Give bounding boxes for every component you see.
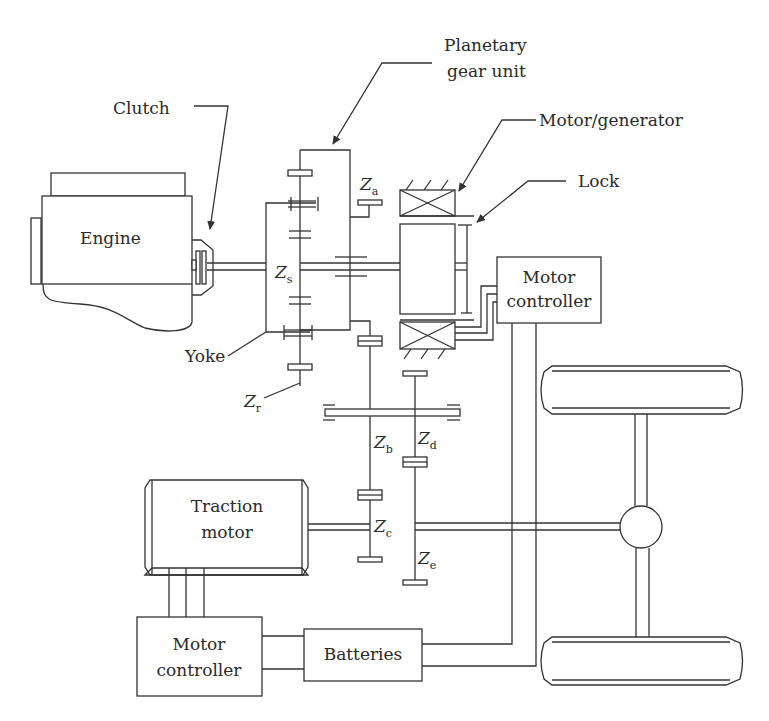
motor-controller-top: Motor controller bbox=[497, 257, 601, 323]
engine-front-plate bbox=[31, 218, 41, 284]
svg-text:Zc: Zc bbox=[373, 516, 392, 540]
svg-text:Motor/generator: Motor/generator bbox=[539, 110, 684, 130]
svg-text:Lock: Lock bbox=[578, 171, 620, 191]
svg-text:controller: controller bbox=[157, 660, 243, 680]
engine-oil-pan bbox=[43, 284, 192, 331]
svg-text:Za: Za bbox=[359, 174, 379, 198]
clutch bbox=[192, 240, 213, 295]
svg-text:gear unit: gear unit bbox=[447, 61, 526, 81]
svg-text:Zr: Zr bbox=[243, 391, 262, 415]
wheel-bottom bbox=[541, 637, 743, 685]
rear-axle bbox=[541, 366, 743, 685]
svg-text:controller: controller bbox=[507, 291, 593, 311]
batteries: Batteries bbox=[304, 629, 422, 681]
wheel-top bbox=[541, 366, 743, 414]
motor-controller-bottom: Motor controller bbox=[137, 617, 262, 696]
svg-text:Engine: Engine bbox=[80, 228, 141, 248]
svg-text:Zs: Zs bbox=[274, 262, 293, 286]
traction-motor: Traction motor bbox=[145, 480, 308, 575]
svg-text:Ze: Ze bbox=[417, 548, 436, 572]
svg-text:Motor: Motor bbox=[173, 634, 227, 654]
svg-text:Zd: Zd bbox=[417, 428, 437, 452]
differential bbox=[620, 506, 662, 548]
wire-controller-battery-2 bbox=[422, 323, 536, 666]
svg-text:Batteries: Batteries bbox=[324, 644, 403, 664]
svg-text:Traction: Traction bbox=[191, 496, 264, 516]
motor-generator bbox=[400, 180, 497, 359]
svg-text:Planetary: Planetary bbox=[444, 35, 527, 55]
engine-shaft bbox=[207, 263, 266, 270]
wire-controller-battery-1 bbox=[422, 323, 512, 644]
engine bbox=[31, 173, 192, 331]
powertrain-diagram: Motor controller Traction motor bbox=[0, 0, 769, 721]
svg-text:Zb: Zb bbox=[373, 432, 393, 456]
svg-text:Yoke: Yoke bbox=[184, 346, 225, 366]
svg-text:Clutch: Clutch bbox=[113, 98, 170, 118]
svg-text:Motor: Motor bbox=[523, 267, 577, 287]
svg-text:motor: motor bbox=[201, 522, 253, 542]
engine-top-cover bbox=[51, 173, 185, 196]
countershaft bbox=[323, 371, 460, 585]
